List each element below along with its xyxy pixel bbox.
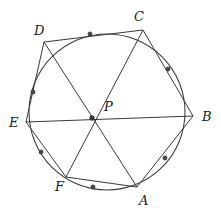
edge-EF xyxy=(26,122,66,177)
edge-BC xyxy=(143,30,193,116)
arc-point-af xyxy=(91,185,95,189)
arc-point-ba xyxy=(163,156,167,160)
vertex-label-e: E xyxy=(9,116,19,129)
edge-CD xyxy=(44,30,143,42)
vertex-label-p: P xyxy=(104,100,113,113)
geometry-figure: ABCDEFP xyxy=(0,0,221,215)
vertex-label-a: A xyxy=(139,194,148,207)
vertex-label-f: F xyxy=(55,180,64,193)
arc-point-cb xyxy=(166,67,170,71)
arc-point-ed xyxy=(31,90,35,94)
center-point-dot xyxy=(90,116,95,121)
vertex-label-d: D xyxy=(34,24,44,37)
edge-FA xyxy=(66,177,137,187)
arc-point-dc xyxy=(88,32,92,36)
vertex-label-c: C xyxy=(134,10,144,23)
vertex-label-b: B xyxy=(202,110,212,123)
arc-point-fe xyxy=(39,150,43,154)
edge-AB xyxy=(137,116,193,187)
center-point-P-dot xyxy=(90,116,95,121)
diagonal-BE xyxy=(26,116,193,122)
